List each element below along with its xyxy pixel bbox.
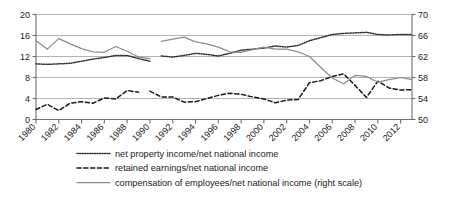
chart-figure: 048121620 505458626670 19801982198419861… <box>0 0 451 203</box>
y-axis-left-label-20: 20 <box>20 10 30 20</box>
y-axis-right-label-58: 58 <box>418 73 428 83</box>
y-axis-right-label-66: 66 <box>418 31 428 41</box>
y-axis-right-label-50: 50 <box>418 115 428 125</box>
legend-label-2: compensation of employees/net national i… <box>115 178 362 188</box>
y-axis-left-label-4: 4 <box>25 94 30 104</box>
y-axis-left-label-8: 8 <box>25 73 30 83</box>
y-axis-right-label-70: 70 <box>418 10 428 20</box>
y-axis-right-label-54: 54 <box>418 94 428 104</box>
chart-plot-svg: 048121620 505458626670 19801982198419861… <box>0 0 451 203</box>
legend-label-0: net property income/net national income <box>115 149 278 159</box>
y-axis-right-label-62: 62 <box>418 52 428 62</box>
legend-label-1: retained earnings/net national income <box>115 163 268 173</box>
y-axis-left-label-12: 12 <box>20 52 30 62</box>
y-axis-left-label-16: 16 <box>20 31 30 41</box>
